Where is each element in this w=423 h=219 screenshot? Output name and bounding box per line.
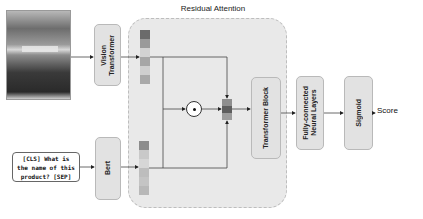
vision-to-product-path [163,57,185,109]
residual-text-path [149,121,227,168]
residual-vision-path [150,57,227,98]
connection-arrows [0,0,423,219]
